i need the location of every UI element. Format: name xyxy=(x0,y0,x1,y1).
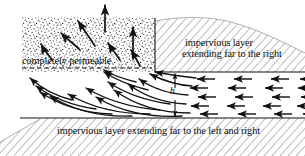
impervious-bottom-label: impervious layer extending far to the le… xyxy=(57,126,260,137)
impervious-right-label-line1: impervious layer xyxy=(185,37,253,48)
horizontal-flow-arrows xyxy=(190,79,305,114)
impervious-right-label: impervious layer extending far to the ri… xyxy=(185,38,282,60)
head-symbol-label: h xyxy=(170,86,175,96)
hydrogeology-cross-section-figure: completely permeable impervious layer ex… xyxy=(0,0,305,156)
impervious-right-label-line2: extending far to the right xyxy=(182,49,282,60)
impervious-bottom-region xyxy=(0,118,305,156)
permeable-zone-label: completely permeable xyxy=(22,56,111,67)
